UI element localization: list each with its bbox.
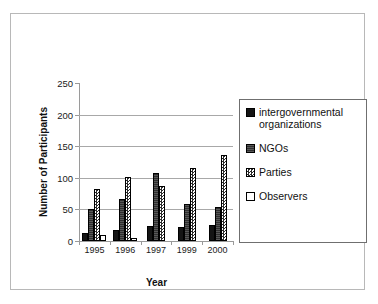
x-tick-label: 2000 bbox=[202, 245, 233, 255]
dark-gray-square-icon bbox=[246, 144, 255, 153]
y-axis-title: Number of Participants bbox=[38, 107, 49, 217]
bar-group bbox=[79, 83, 110, 241]
bar bbox=[159, 186, 165, 241]
legend-item[interactable]: Observers bbox=[246, 190, 361, 202]
x-tick-label: 1996 bbox=[110, 245, 141, 255]
bar bbox=[125, 177, 131, 241]
legend-item-label: intergovernmental organizations bbox=[259, 106, 361, 130]
legend-item[interactable]: Parties bbox=[246, 166, 361, 178]
y-tick-label: 0 bbox=[68, 236, 73, 247]
black-square-icon bbox=[246, 108, 255, 117]
checkered-square-icon bbox=[246, 168, 255, 177]
legend-item-label: NGOs bbox=[259, 142, 288, 154]
x-axis-line bbox=[79, 241, 234, 242]
y-tick-label: 250 bbox=[57, 78, 73, 89]
x-axis-title: Year bbox=[79, 277, 234, 288]
x-tick-label: 1997 bbox=[141, 245, 172, 255]
bar-group bbox=[171, 83, 202, 241]
x-tick-label: 1995 bbox=[79, 245, 110, 255]
legend-item[interactable]: NGOs bbox=[246, 142, 361, 154]
legend-item-label: Observers bbox=[259, 190, 307, 202]
bar-group bbox=[141, 83, 172, 241]
bar bbox=[94, 189, 100, 241]
x-tick-label: 1999 bbox=[171, 245, 202, 255]
legend-item-label: Parties bbox=[259, 166, 292, 178]
bar bbox=[100, 235, 106, 241]
x-tick-mark bbox=[233, 241, 234, 245]
plot-area: 050100150200250 bbox=[79, 83, 233, 241]
bar bbox=[190, 168, 196, 241]
white-square-icon bbox=[246, 192, 255, 201]
legend-item[interactable]: intergovernmental organizations bbox=[246, 106, 361, 130]
y-tick-label: 200 bbox=[57, 109, 73, 120]
bar-group bbox=[110, 83, 141, 241]
y-tick-label: 50 bbox=[62, 204, 73, 215]
bar bbox=[131, 238, 137, 241]
bar bbox=[221, 155, 227, 241]
chart-frame: Number of Participants 050100150200250 Y… bbox=[10, 13, 365, 290]
bar-group bbox=[202, 83, 233, 241]
y-tick-label: 100 bbox=[57, 172, 73, 183]
y-tick-label: 150 bbox=[57, 141, 73, 152]
chart-legend: intergovernmental organizationsNGOsParti… bbox=[239, 99, 367, 243]
